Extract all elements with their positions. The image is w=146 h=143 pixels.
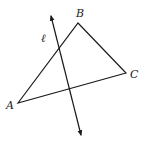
vertex-label-b: B — [75, 7, 84, 20]
line-label-l: ℓ — [41, 32, 46, 45]
vertex-label-c: C — [130, 68, 139, 81]
vertex-label-a: A — [5, 99, 14, 112]
line-l — [51, 16, 81, 135]
geometry-diagram: B C A ℓ — [0, 0, 146, 143]
triangle-abc — [18, 23, 126, 103]
